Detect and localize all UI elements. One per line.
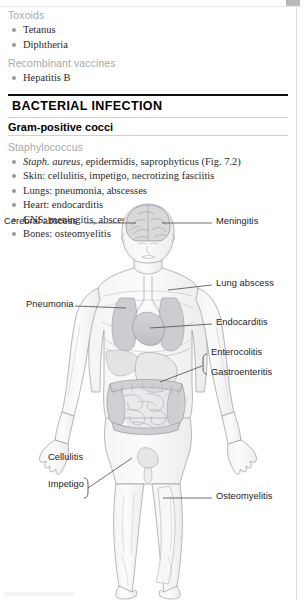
list-recombinant-vaccines: Hepatitis B: [10, 71, 288, 85]
caption-stub: [4, 592, 74, 596]
list-toxoids: Tetanus Diphtheria: [10, 23, 288, 51]
list-item: Skin: cellulitis, impetigo, necrotizing …: [10, 169, 288, 183]
subsection-title: Gram-positive cocci: [8, 121, 288, 133]
label-pneumonia: Pneumonia: [26, 299, 73, 309]
anatomical-figure: Cerebral abscess Meningitis Pneumonia Lu…: [0, 196, 296, 600]
document-page: Toxoids Tetanus Diphtheria Recombinant v…: [0, 0, 308, 600]
list-item-italic: Staph. aureus: [23, 156, 80, 167]
label-lung-abscess: Lung abscess: [216, 278, 274, 288]
heading-staphylococcus: Staphylococcus: [8, 140, 288, 154]
subsection-rule: [8, 135, 288, 136]
label-meningitis: Meningitis: [216, 216, 258, 226]
right-margin-rule: [296, 7, 297, 600]
list-item: Staph. aureus, epidermidis, saprophyticu…: [10, 155, 288, 169]
top-divider-rule: [0, 6, 300, 7]
label-cellulitis: Cellulitis: [48, 452, 83, 462]
list-item: Lungs: pneumonia, abscesses: [10, 184, 288, 198]
label-enterocolitis: Enterocolitis: [211, 347, 262, 357]
label-osteomyelitis: Osteomyelitis: [216, 491, 272, 501]
label-impetigo: Impetigo: [48, 479, 84, 489]
section-rule-bottom: [8, 117, 288, 118]
section-rule-top: [8, 94, 288, 96]
label-gastroenteritis: Gastroenteritis: [211, 367, 272, 377]
list-item-text: Skin: cellulitis, impetigo, necrotizing …: [23, 170, 214, 181]
label-cerebral-abscess: Cerebral abscess: [4, 216, 77, 226]
groin-detail: [144, 468, 152, 484]
list-item-text: , epidermidis, saprophyticus (Fig. 7.2): [80, 156, 240, 167]
list-item: Diphtheria: [10, 38, 288, 52]
side-margin-tab: [296, 544, 308, 596]
heading-toxoids: Toxoids: [8, 8, 288, 22]
list-item: Hepatitis B: [10, 71, 288, 85]
label-endocarditis: Endocarditis: [216, 317, 268, 327]
section-title: BACTERIAL INFECTION: [12, 99, 288, 113]
heading-recombinant-vaccines: Recombinant vaccines: [8, 56, 288, 70]
human-body-diagram: [0, 196, 296, 600]
list-item-text: Lungs: pneumonia, abscesses: [23, 185, 147, 196]
list-item: Tetanus: [10, 23, 288, 37]
